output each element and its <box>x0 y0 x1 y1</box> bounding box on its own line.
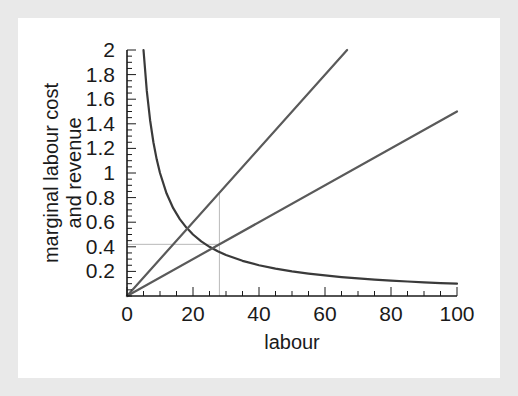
x-tick-label: 60 <box>313 302 336 325</box>
y-tick-label: 0.4 <box>86 235 116 258</box>
y-axis-title-line1: marginal labour cost <box>40 83 62 264</box>
chart-figure: 0204060801000.20.40.60.811.21.41.61.82la… <box>0 0 518 396</box>
series-line-2 <box>127 112 457 297</box>
chart-canvas: 0204060801000.20.40.60.811.21.41.61.82la… <box>18 18 500 378</box>
y-axis-title-line2: and revenue <box>63 117 85 228</box>
y-tick-label: 0.6 <box>86 210 115 233</box>
y-tick-label: 1.6 <box>86 87 115 110</box>
x-tick-label: 100 <box>439 302 474 325</box>
y-tick-label: 1.8 <box>86 63 115 86</box>
y-tick-label: 1.2 <box>86 136 115 159</box>
plot-card: 0204060801000.20.40.60.811.21.41.61.82la… <box>18 18 500 378</box>
y-tick-label: 1.4 <box>86 112 116 135</box>
y-tick-label: 1 <box>103 161 115 184</box>
y-tick-label: 0.2 <box>86 259 115 282</box>
y-tick-label: 0.8 <box>86 186 115 209</box>
series-line-0 <box>144 50 458 284</box>
x-tick-label: 80 <box>379 302 402 325</box>
x-axis-title: labour <box>264 331 320 353</box>
x-tick-label: 0 <box>121 302 133 325</box>
y-tick-label: 2 <box>103 38 115 61</box>
x-tick-label: 40 <box>247 302 270 325</box>
x-tick-label: 20 <box>181 302 204 325</box>
